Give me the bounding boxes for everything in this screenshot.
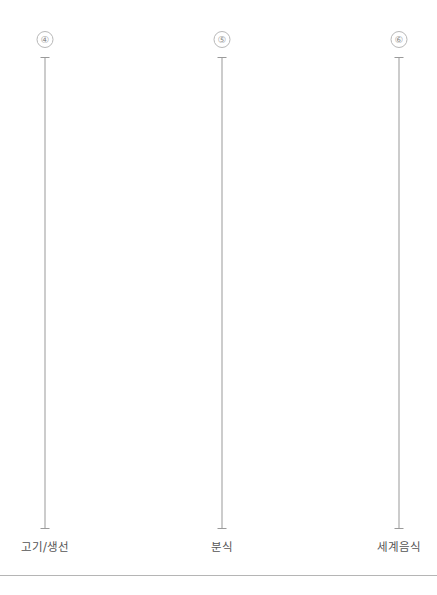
axis-category-label: 고기/생선	[21, 538, 69, 554]
footer-divider	[0, 575, 437, 576]
axis-category-label: 세계음식	[377, 538, 421, 554]
step-number-marker: ④	[37, 31, 54, 48]
axis-vertical-line	[399, 57, 400, 529]
axis-category-label: 분식	[211, 538, 233, 554]
axis-bottom-cap-icon	[395, 528, 404, 529]
axis-bottom-cap-icon	[218, 528, 227, 529]
diagram-canvas: ④ 고기/생선 ⑤ 분식 ⑥ 세계음식	[0, 0, 437, 595]
axis-vertical-line	[222, 57, 223, 529]
axis-vertical-line	[45, 57, 46, 529]
step-number-marker: ⑤	[214, 31, 231, 48]
step-number-marker: ⑥	[391, 31, 408, 48]
axis-bottom-cap-icon	[41, 528, 50, 529]
